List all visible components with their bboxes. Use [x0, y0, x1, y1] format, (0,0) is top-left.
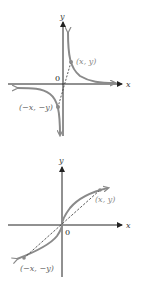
origin-label: 0 — [55, 74, 60, 83]
origin-label: 0 — [65, 228, 70, 237]
graph-cube-root: y x 0 (x, y) (−x, −y) — [8, 156, 131, 277]
point-neg-xy — [22, 256, 26, 260]
odd-functions-diagram: y x 0 (x, y) (−x, −y) y x 0 (x, y) (−x, … — [0, 0, 141, 281]
x-axis-label: x — [126, 80, 131, 89]
x-axis-label: x — [126, 221, 131, 230]
point-xy-label: (x, y) — [76, 57, 96, 66]
point-neg-xy-label: (−x, −y) — [20, 264, 54, 273]
y-axis-label: y — [58, 156, 64, 165]
point-neg-xy-label: (−x, −y) — [19, 103, 53, 112]
point-neg-xy — [56, 105, 60, 109]
y-axis-label: y — [59, 12, 65, 21]
point-xy — [69, 60, 73, 64]
point-xy-label: (x, y) — [95, 195, 115, 204]
graph-hyperbola: y x 0 (x, y) (−x, −y) — [8, 12, 131, 136]
point-xy — [98, 188, 102, 192]
